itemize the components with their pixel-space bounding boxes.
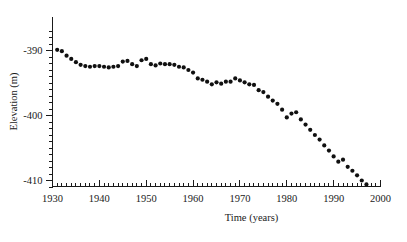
data-point bbox=[275, 102, 279, 106]
data-point bbox=[289, 111, 293, 115]
data-point bbox=[97, 64, 101, 68]
data-point bbox=[60, 49, 64, 53]
data-point bbox=[332, 154, 336, 158]
data-point bbox=[210, 82, 214, 86]
data-point bbox=[130, 62, 134, 66]
data-point bbox=[64, 54, 68, 58]
data-point bbox=[364, 182, 368, 186]
y-tick-label: -400 bbox=[23, 110, 42, 121]
data-point bbox=[116, 64, 120, 68]
data-point bbox=[121, 59, 125, 63]
data-point bbox=[186, 68, 190, 72]
data-point bbox=[191, 71, 195, 75]
y-tick-label: -410 bbox=[23, 175, 42, 186]
data-point bbox=[200, 78, 204, 82]
y-axis-tick-labels: -390-400-410 bbox=[23, 45, 42, 186]
data-point bbox=[168, 62, 172, 66]
y-tick-label: -390 bbox=[23, 45, 42, 56]
data-point bbox=[233, 76, 237, 80]
chart-canvas: -390-400-410 193019401950196019701980199… bbox=[0, 0, 407, 242]
data-point bbox=[346, 165, 350, 169]
x-tick-label: 2000 bbox=[370, 193, 391, 204]
data-point bbox=[139, 58, 143, 62]
data-point bbox=[163, 62, 167, 66]
data-point bbox=[257, 88, 261, 92]
data-point bbox=[355, 173, 359, 177]
data-point bbox=[271, 98, 275, 102]
data-point bbox=[102, 65, 106, 69]
data-point bbox=[83, 64, 87, 68]
data-point bbox=[327, 149, 331, 153]
data-point bbox=[111, 65, 115, 69]
data-point bbox=[79, 63, 83, 67]
x-tick-label: 1970 bbox=[229, 193, 250, 204]
data-point bbox=[149, 62, 153, 66]
data-point bbox=[93, 64, 97, 68]
x-axis-tick-labels: 19301940195019601970198019902000 bbox=[42, 193, 391, 204]
data-point-group bbox=[55, 48, 368, 187]
data-point bbox=[196, 76, 200, 80]
data-point bbox=[144, 57, 148, 61]
x-tick-label: 1950 bbox=[136, 193, 157, 204]
data-point bbox=[261, 90, 265, 94]
data-point bbox=[360, 178, 364, 182]
data-point bbox=[252, 83, 256, 87]
data-point bbox=[88, 65, 92, 69]
x-tick-label: 1930 bbox=[42, 193, 63, 204]
data-point bbox=[294, 110, 298, 114]
data-point bbox=[238, 78, 242, 82]
y-axis-ticks bbox=[46, 31, 53, 187]
y-axis-title: Elevation (m) bbox=[8, 72, 20, 131]
data-point bbox=[219, 82, 223, 86]
data-point bbox=[177, 65, 181, 69]
data-point bbox=[153, 63, 157, 67]
data-point bbox=[280, 108, 284, 112]
data-point bbox=[214, 80, 218, 84]
data-point bbox=[69, 57, 73, 61]
data-point bbox=[135, 64, 139, 68]
x-tick-label: 1980 bbox=[276, 193, 297, 204]
data-point bbox=[243, 80, 247, 84]
data-point bbox=[205, 80, 209, 84]
axes bbox=[46, 17, 381, 188]
data-point bbox=[172, 63, 176, 67]
data-point bbox=[247, 82, 251, 86]
data-point bbox=[313, 133, 317, 137]
x-axis-ticks bbox=[53, 180, 381, 187]
data-point bbox=[308, 128, 312, 132]
data-point bbox=[303, 123, 307, 127]
data-point bbox=[228, 80, 232, 84]
data-point bbox=[299, 117, 303, 121]
data-point bbox=[224, 80, 228, 84]
data-point bbox=[182, 65, 186, 69]
data-point bbox=[285, 115, 289, 119]
data-point bbox=[266, 95, 270, 99]
data-point bbox=[336, 160, 340, 164]
x-axis-title: Time (years) bbox=[225, 212, 279, 224]
elevation-time-scatter-chart: -390-400-410 193019401950196019701980199… bbox=[0, 0, 407, 242]
data-point bbox=[317, 137, 321, 141]
data-point bbox=[125, 59, 129, 63]
x-tick-label: 1960 bbox=[183, 193, 204, 204]
data-point bbox=[350, 169, 354, 173]
data-point bbox=[158, 61, 162, 65]
data-point bbox=[55, 48, 59, 52]
x-tick-label: 1990 bbox=[323, 193, 344, 204]
data-point bbox=[74, 60, 78, 64]
data-point bbox=[341, 158, 345, 162]
data-point bbox=[107, 65, 111, 69]
data-point bbox=[322, 143, 326, 147]
x-tick-label: 1940 bbox=[89, 193, 110, 204]
